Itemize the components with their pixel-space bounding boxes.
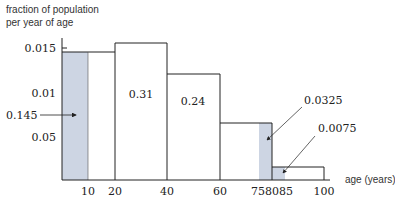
x-tick-label: 60 [213,185,227,198]
y-tick-label: 0.05 [32,131,57,144]
x-tick-label: 85 [279,185,293,198]
annotation-0-10: 0.145 [6,109,38,122]
x-tick-label: 10 [81,185,95,198]
y-axis-title-line-2: per year of age [6,17,74,28]
histogram-bars [62,43,324,180]
x-tick-label: 75 [251,185,265,198]
annotation-80-85: 0.0075 [318,122,357,135]
y-tick-label: 0.01 [32,87,57,100]
x-tick-label: 100 [314,185,335,198]
y-axis-title-line-1: fraction of population [6,4,99,15]
bar-40-60 [167,74,220,180]
histogram-chart: fraction of population per year of age 0… [0,0,395,210]
x-axis-title: age (years) [345,174,395,185]
bar-label-40-60: 0.24 [181,95,206,108]
x-tick-label: 20 [108,185,122,198]
x-tick-label: 80 [265,185,279,198]
shaded-region-75-80 [259,123,272,180]
y-tick-label: 0.015 [25,42,57,55]
annotation-75-80: 0.0325 [304,94,343,107]
shaded-region-80-85 [272,167,285,180]
shaded-region-0-10 [62,52,88,180]
bar-label-20-40: 0.31 [129,88,154,101]
x-tick-label: 40 [160,185,174,198]
bar-20-40 [115,43,167,180]
